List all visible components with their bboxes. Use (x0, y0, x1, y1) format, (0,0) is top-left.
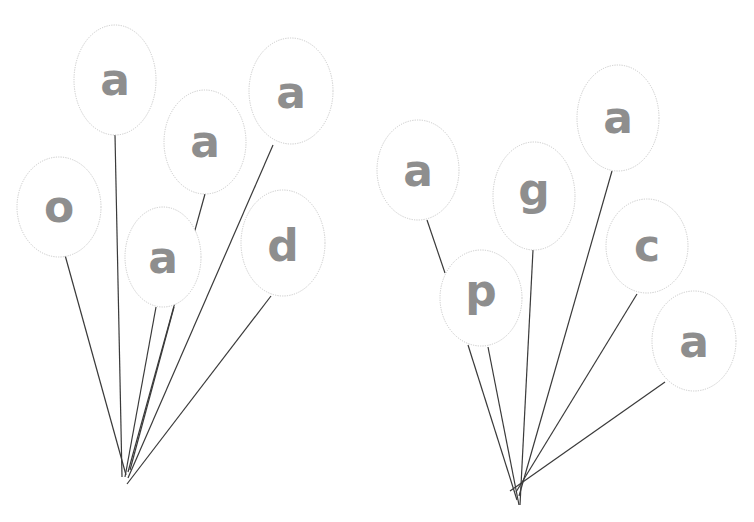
balloon-letter: a (603, 92, 633, 143)
balloon: p (440, 250, 522, 346)
balloon: a (652, 291, 736, 391)
left-bunch: a a a o a d (17, 25, 333, 307)
balloon: a (249, 38, 333, 144)
right-bunch: a g a c p a (377, 65, 736, 391)
balloon: a (377, 120, 459, 220)
balloon-worksheet: a a a o a d (0, 0, 754, 522)
balloon-letter: a (276, 67, 306, 118)
balloon-string (128, 145, 273, 478)
balloon: c (606, 199, 688, 293)
balloon: a (125, 207, 201, 307)
balloon-letter: c (634, 220, 660, 271)
balloon-letter: p (465, 265, 497, 316)
balloon: a (74, 25, 156, 135)
balloon: a (164, 90, 246, 194)
balloon: o (17, 157, 101, 257)
balloon-letter: a (679, 316, 709, 367)
balloon-string (516, 294, 637, 492)
balloon-letter: a (100, 54, 130, 105)
balloon-letter: d (267, 220, 299, 271)
balloon-string (127, 296, 271, 484)
balloon-letter: a (148, 232, 178, 283)
balloon: a (577, 65, 659, 171)
balloon-letter: a (403, 145, 433, 196)
balloon-string (65, 255, 126, 475)
balloon-letter: g (518, 164, 550, 215)
balloon-string (427, 220, 445, 273)
balloon: g (493, 142, 575, 250)
balloon-string (510, 382, 665, 491)
balloon: d (241, 190, 325, 296)
balloon-string (115, 135, 122, 477)
balloon-string (488, 347, 519, 505)
balloon-letter: a (190, 116, 220, 167)
balloon-letter: o (44, 181, 74, 232)
